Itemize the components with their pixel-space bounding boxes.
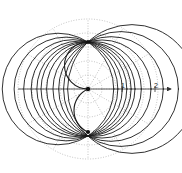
polar-plot-figure: 1 2 xyxy=(0,0,182,173)
lower-node-marker xyxy=(86,130,90,134)
axis-tick-label-2: 2 xyxy=(154,82,158,89)
origin-marker xyxy=(86,87,90,91)
separatrix-lower-lobe xyxy=(74,89,88,132)
axis-tick-label-1: 1 xyxy=(121,82,125,89)
node-markers xyxy=(86,40,90,134)
grid-spoke-330 xyxy=(88,89,149,124)
grid-spoke-30 xyxy=(88,54,149,89)
upper-node-marker xyxy=(86,40,90,44)
